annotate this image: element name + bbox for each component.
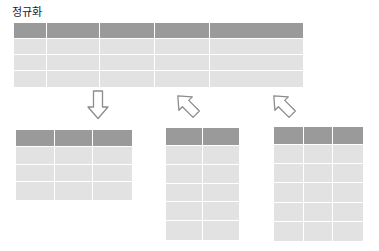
- table-header-cell: [166, 128, 203, 146]
- arrow-down-2-icon: [172, 90, 202, 120]
- table-cell: [155, 55, 210, 71]
- table-cell: [47, 71, 100, 87]
- table-cell: [304, 183, 334, 202]
- table-cell: [100, 39, 155, 55]
- result-table-2: [166, 128, 239, 240]
- table-header-cell: [304, 127, 334, 145]
- table-cell: [304, 164, 334, 183]
- table-cell: [274, 164, 304, 183]
- table-cell: [210, 39, 303, 55]
- table-cell: [16, 147, 55, 165]
- table-cell: [304, 145, 334, 164]
- table-cell: [210, 71, 303, 87]
- diagram-canvas: 정규화: [0, 0, 379, 251]
- arrow-down-3-icon: [268, 90, 298, 120]
- table-cell: [100, 55, 155, 71]
- table-cell: [14, 55, 47, 71]
- table-cell: [274, 222, 304, 241]
- table-cell: [333, 164, 363, 183]
- table-cell: [93, 165, 132, 183]
- table-cell: [304, 222, 334, 241]
- table-header-cell: [100, 23, 155, 39]
- source-table: [14, 23, 303, 87]
- table-cell: [47, 39, 100, 55]
- table-header-cell: [47, 23, 100, 39]
- table-cell: [166, 202, 203, 221]
- table-cell: [203, 202, 240, 221]
- table-cell: [203, 165, 240, 184]
- table-cell: [55, 182, 94, 200]
- table-cell: [93, 147, 132, 165]
- table-cell: [16, 165, 55, 183]
- table-cell: [100, 71, 155, 87]
- table-cell: [203, 221, 240, 240]
- table-cell: [203, 184, 240, 203]
- table-header-cell: [14, 23, 47, 39]
- table-cell: [333, 145, 363, 164]
- table-cell: [274, 183, 304, 202]
- table-header-cell: [333, 127, 363, 145]
- page-title: 정규화: [12, 3, 43, 19]
- table-cell: [274, 203, 304, 222]
- table-cell: [333, 222, 363, 241]
- result-table-1: [16, 130, 132, 200]
- table-cell: [14, 39, 47, 55]
- table-cell: [166, 221, 203, 240]
- table-cell: [55, 165, 94, 183]
- table-header-cell: [274, 127, 304, 145]
- table-cell: [304, 203, 334, 222]
- table-cell: [166, 146, 203, 165]
- table-cell: [203, 146, 240, 165]
- table-cell: [210, 55, 303, 71]
- arrow-down-1-icon: [86, 90, 110, 120]
- table-cell: [274, 145, 304, 164]
- table-header-cell: [93, 130, 132, 147]
- table-header-cell: [203, 128, 240, 146]
- table-header-cell: [16, 130, 55, 147]
- table-cell: [55, 147, 94, 165]
- table-header-cell: [210, 23, 303, 39]
- table-cell: [333, 183, 363, 202]
- table-cell: [14, 71, 47, 87]
- result-table-3: [274, 127, 363, 241]
- table-cell: [47, 55, 100, 71]
- table-cell: [166, 165, 203, 184]
- table-cell: [93, 182, 132, 200]
- table-cell: [333, 203, 363, 222]
- table-cell: [16, 182, 55, 200]
- table-header-cell: [155, 23, 210, 39]
- table-cell: [166, 184, 203, 203]
- table-cell: [155, 71, 210, 87]
- table-cell: [155, 39, 210, 55]
- table-header-cell: [55, 130, 94, 147]
